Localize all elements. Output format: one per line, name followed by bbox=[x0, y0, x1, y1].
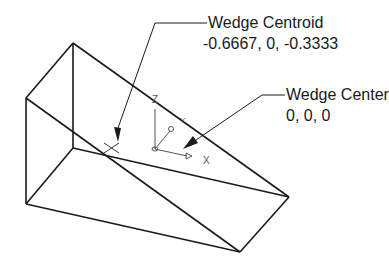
x-axis-label: X bbox=[203, 156, 210, 166]
z-axis-label: Z bbox=[152, 95, 158, 105]
center-leader bbox=[196, 95, 285, 140]
centroid-leader bbox=[118, 23, 207, 128]
center-callout-title: Wedge Center bbox=[286, 85, 389, 105]
centroid-callout-title: Wedge Centroid bbox=[208, 13, 323, 33]
y-axis-label: Y bbox=[180, 116, 185, 126]
center-callout-coordinates: 0, 0, 0 bbox=[286, 106, 330, 126]
axes-triad bbox=[152, 109, 192, 159]
centroid-callout-coordinates: -0.6667, 0, -0.3333 bbox=[203, 34, 338, 54]
centroid-marker-icon bbox=[104, 143, 119, 153]
center-arrowhead-icon bbox=[183, 136, 198, 149]
centroid-arrowhead-icon bbox=[114, 127, 121, 142]
